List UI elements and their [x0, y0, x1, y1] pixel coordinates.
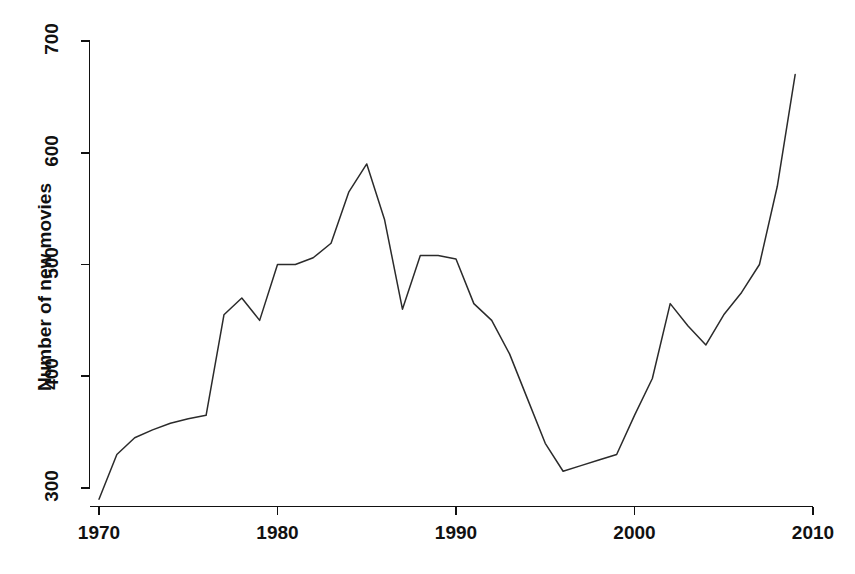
- y-axis-ticks: [81, 41, 90, 488]
- x-tick-label-1990: 1990: [426, 522, 486, 544]
- y-tick-label-400: 400: [41, 358, 63, 390]
- y-tick-label-300: 300: [41, 470, 63, 502]
- line-chart: Number of new movies 700 600 500 400 300: [0, 0, 855, 574]
- y-tick-label-600: 600: [41, 135, 63, 167]
- x-axis-ticks: [99, 507, 813, 516]
- y-tick-label-700: 700: [41, 23, 63, 55]
- y-tick-label-500: 500: [41, 247, 63, 279]
- x-tick-label-2010: 2010: [783, 522, 843, 544]
- plot-area: [0, 0, 855, 574]
- x-tick-label-2000: 2000: [605, 522, 665, 544]
- x-tick-label-1980: 1980: [248, 522, 308, 544]
- x-tick-label-1970: 1970: [69, 522, 129, 544]
- data-series-line: [99, 75, 795, 500]
